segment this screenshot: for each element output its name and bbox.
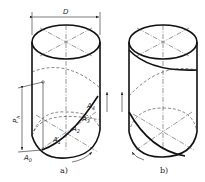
cylinder-b: b) xyxy=(129,25,197,175)
cylinder-a: D Ph A0 A1 A2 A3 A4 a) xyxy=(12,8,100,175)
pitch-label: Ph xyxy=(12,116,21,123)
point-a2: A2 xyxy=(71,125,80,134)
point-a3: A3 xyxy=(81,115,90,124)
helix-diagram: D Ph A0 A1 A2 A3 A4 a) xyxy=(0,0,205,182)
point-a0: A0 xyxy=(23,154,32,163)
caption-b: b) xyxy=(160,166,168,175)
dimension-d-label: D xyxy=(63,8,69,16)
caption-a: a) xyxy=(60,166,68,175)
point-a1: A1 xyxy=(52,136,61,145)
